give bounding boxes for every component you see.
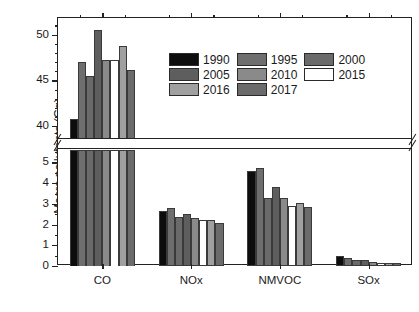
top-axis-tick [280,13,281,18]
bar-CO-2005-lower [94,150,102,266]
y-axis-tick [52,183,58,184]
y-axis-tick-label: 50 [36,29,49,41]
legend-item-1990: 1990 [169,53,230,66]
y-axis-tick-label: 45 [36,75,49,87]
y-axis-tick [52,245,58,246]
bar-NMVOC-2016 [296,203,304,266]
bar-CO-2010-lower [102,150,110,266]
legend-swatch-2010 [237,68,267,81]
bar-CO-2005-upper [94,30,102,139]
y-axis-minor-tick [55,235,59,236]
bar-CO-2000-upper [86,76,94,139]
bar-SOx-2000 [352,260,360,266]
y-axis-minor-tick [55,194,59,195]
top-axis-tick [191,13,192,18]
axis-break-mark-left [51,133,64,153]
bar-NOx-2000 [175,217,183,266]
y-axis-tick [52,35,58,36]
bar-NOx-1995 [167,208,175,266]
bar-NMVOC-1995 [256,168,264,266]
y-axis-tick [52,126,58,127]
bar-CO-1995-lower [78,150,86,266]
bar-NOx-1990 [159,211,167,266]
bar-CO-2000-lower [86,150,94,266]
top-axis-minor-tick [258,15,259,19]
y-axis-tick [52,162,58,163]
bar-NOx-2016 [207,220,215,266]
y-axis-minor-tick [55,71,59,72]
bar-SOx-1990 [336,256,344,266]
y-axis-minor-tick [55,53,59,54]
bar-SOx-2005 [361,260,369,266]
legend-label-2000: 2000 [338,54,365,66]
bar-CO-2015-upper [110,60,118,139]
x-axis-label-SOx: SOx [357,274,379,286]
bar-NMVOC-2017 [304,207,312,266]
y-axis-tick-label: 1 [43,240,49,252]
y-axis-tick-label: 2 [43,219,49,231]
bar-NMVOC-2010 [280,198,288,266]
legend-swatch-1995 [237,53,267,66]
y-axis-tick [52,225,58,226]
legend-label-2017: 2017 [271,84,298,96]
legend-item-2010: 2010 [237,68,298,81]
legend-label-2005: 2005 [203,69,230,81]
legend-label-2010: 2010 [271,69,298,81]
top-axis-minor-tick [125,15,126,19]
bar-CO-2016-lower [119,150,127,266]
bar-CO-1990-upper [70,119,78,139]
bar-NOx-2017 [215,223,223,267]
y-axis-tick [52,80,58,81]
legend-item-2017: 2017 [237,83,298,96]
top-axis-tick [369,13,370,18]
legend: 19901995200020052010201520162017 [168,52,366,97]
y-axis-minor-tick [55,108,59,109]
y-axis-tick [52,266,58,267]
legend-swatch-2005 [169,68,199,81]
axis-break-band [58,138,411,149]
legend-swatch-2017 [237,83,267,96]
legend-label-2015: 2015 [338,69,365,81]
y-axis-tick-label: 3 [43,198,49,210]
legend-label-1990: 1990 [203,54,230,66]
bar-CO-2017-lower [127,150,135,266]
bar-NOx-2015 [199,220,207,266]
bar-CO-1995-upper [78,62,86,139]
bar-SOx-2015 [377,263,385,266]
top-axis-minor-tick [302,15,303,19]
bar-CO-2015-lower [110,150,118,266]
top-axis-minor-tick [213,15,214,19]
legend-swatch-2000 [304,53,334,66]
x-axis-label-NMVOC: NMVOC [258,274,301,286]
bar-NMVOC-1990 [247,171,255,266]
bar-NMVOC-2005 [272,187,280,266]
y-axis-minor-tick [55,90,59,91]
legend-item-2015: 2015 [304,68,365,81]
x-axis-tick [369,264,370,269]
y-axis-tick-label: 0 [43,260,49,272]
bar-SOx-2010 [369,262,377,266]
bar-NOx-2010 [191,218,199,266]
legend-item-2016: 2016 [169,83,230,96]
bar-CO-1990-lower [70,150,78,266]
legend-swatch-2016 [169,83,199,96]
legend-label-2016: 2016 [203,84,230,96]
bar-SOx-1995 [344,258,352,266]
y-axis-minor-tick [55,256,59,257]
x-axis-tick [191,264,192,269]
y-axis-tick-label: 40 [36,120,49,132]
bar-SOx-2017 [393,263,401,266]
y-axis-tick [52,204,58,205]
y-axis-minor-tick [55,214,59,215]
bar-SOx-2016 [385,263,393,266]
x-axis-label-CO: CO [94,274,111,286]
y-axis-minor-tick [55,44,59,45]
legend-item-2000: 2000 [304,53,365,66]
legend-item-2005: 2005 [169,68,230,81]
y-axis-tick-label: 5 [43,157,49,169]
top-axis-tick [102,13,103,18]
bar-NMVOC-2000 [264,198,272,266]
bar-CO-2016-upper [119,46,127,140]
x-axis-tick [102,264,103,269]
